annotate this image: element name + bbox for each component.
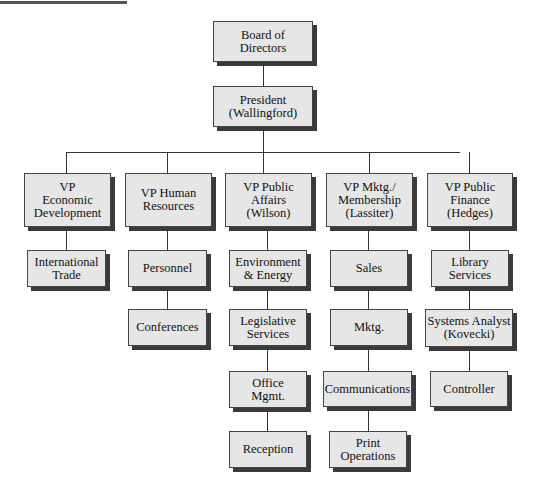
node-label: President (Wallingford) bbox=[229, 94, 297, 120]
node-reception: Reception bbox=[229, 431, 307, 468]
node-vp-fin: VP Public Finance (Hedges) bbox=[427, 173, 513, 227]
node-label: Sales bbox=[356, 262, 382, 275]
node-vp-mktg: VP Mktg./ Membership (Lassiter) bbox=[326, 173, 413, 227]
node-conferences: Conferences bbox=[128, 309, 207, 346]
node-label: Conferences bbox=[136, 321, 198, 334]
node-intl-trade: International Trade bbox=[27, 250, 106, 287]
node-print-ops: Print Operations bbox=[329, 431, 407, 468]
node-label: Reception bbox=[243, 443, 294, 456]
node-vp-pa: VP Public Affairs (Wilson) bbox=[225, 173, 312, 227]
node-label: VP Public Finance (Hedges) bbox=[445, 181, 496, 220]
node-sales: Sales bbox=[330, 250, 408, 287]
connector-vp3 bbox=[263, 152, 264, 173]
connector-vp4 bbox=[369, 152, 370, 173]
connector-board-president bbox=[263, 62, 264, 86]
node-label: Board of Directors bbox=[240, 29, 287, 55]
node-label: VP Economic Development bbox=[34, 181, 101, 220]
node-label: Communications bbox=[325, 383, 410, 396]
node-label: Controller bbox=[443, 383, 494, 396]
node-president: President (Wallingford) bbox=[213, 86, 313, 127]
node-label: Office Mgmt. bbox=[251, 377, 285, 403]
node-controller: Controller bbox=[430, 371, 508, 407]
node-label: VP Public Affairs (Wilson) bbox=[243, 181, 294, 220]
node-label: VP Human Resources bbox=[141, 187, 196, 213]
node-label: Print Operations bbox=[341, 437, 396, 463]
node-label: VP Mktg./ Membership (Lassiter) bbox=[338, 181, 401, 220]
node-communications: Communications bbox=[323, 371, 412, 407]
connector-vp1 bbox=[66, 152, 67, 173]
node-env-energy: Environment & Energy bbox=[229, 250, 307, 287]
node-vp-econ: VP Economic Development bbox=[24, 173, 111, 227]
node-personnel: Personnel bbox=[128, 250, 207, 287]
top-rule bbox=[0, 1, 127, 4]
connector-president-down bbox=[263, 127, 264, 152]
node-sys-analyst: Systems Analyst (Kovecki) bbox=[425, 309, 513, 347]
node-label: International Trade bbox=[35, 256, 99, 282]
connector-col5 bbox=[469, 227, 470, 371]
node-mktg: Mktg. bbox=[330, 309, 408, 346]
node-label: Mktg. bbox=[354, 321, 384, 334]
node-label: Personnel bbox=[143, 262, 192, 275]
connector-vp5 bbox=[469, 152, 470, 173]
node-legislative: Legislative Services bbox=[229, 309, 307, 346]
node-label: Library Services bbox=[449, 256, 491, 282]
node-board: Board of Directors bbox=[213, 21, 313, 62]
node-vp-hr: VP Human Resources bbox=[125, 173, 212, 227]
node-office-mgmt: Office Mgmt. bbox=[229, 371, 307, 408]
node-label: Environment & Energy bbox=[235, 256, 300, 282]
node-label: Legislative Services bbox=[240, 315, 296, 341]
node-library: Library Services bbox=[431, 250, 509, 287]
connector-col1 bbox=[66, 227, 67, 250]
connector-vp2 bbox=[167, 152, 168, 173]
node-label: Systems Analyst (Kovecki) bbox=[428, 315, 511, 341]
